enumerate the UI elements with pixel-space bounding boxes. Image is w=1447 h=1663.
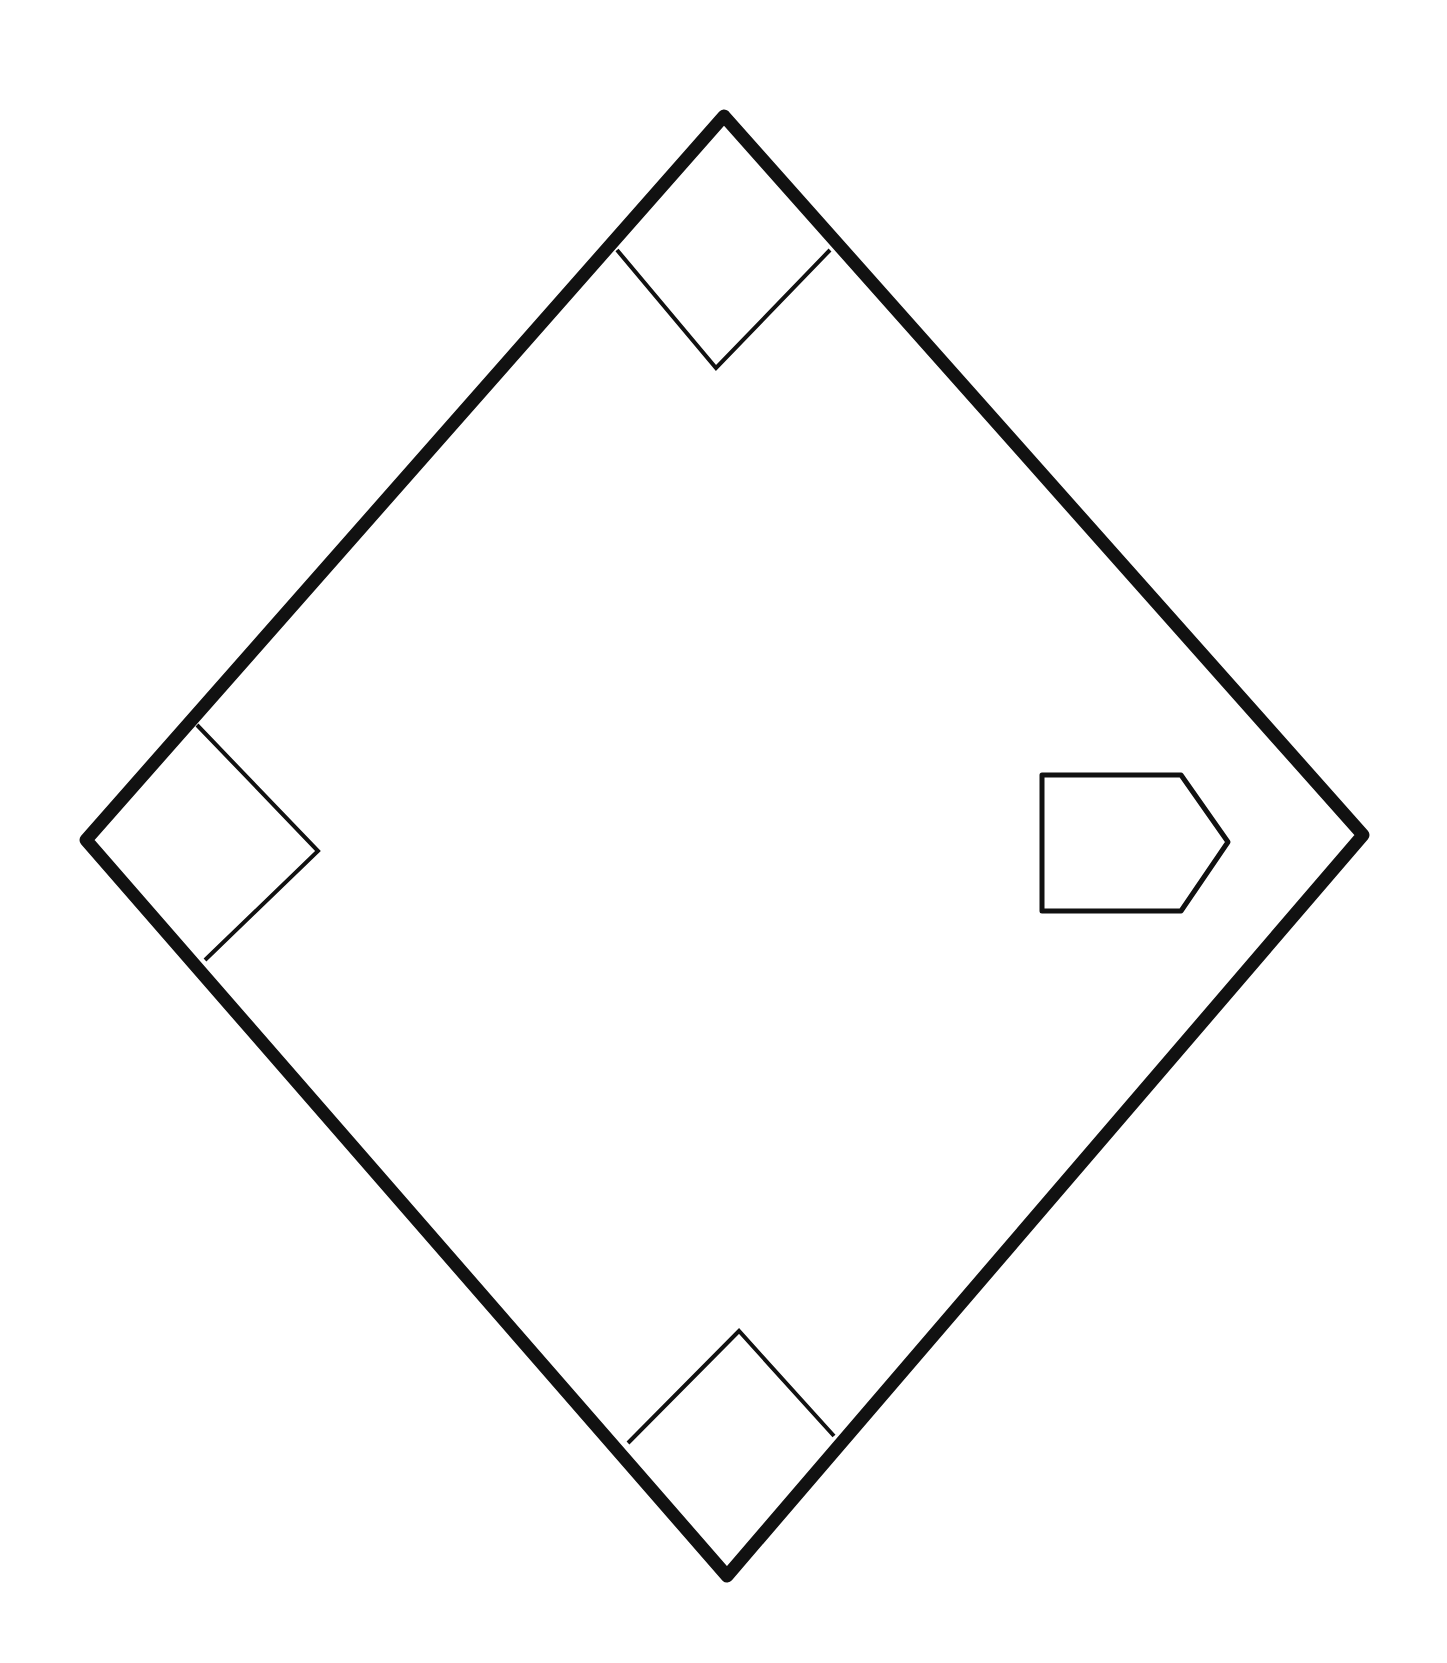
third-base [197,725,318,960]
first-base [628,1331,834,1443]
second-base [617,250,830,368]
home-plate [1042,775,1228,911]
baseball-diamond-diagram [0,0,1447,1663]
infield-diamond [86,116,1363,1576]
